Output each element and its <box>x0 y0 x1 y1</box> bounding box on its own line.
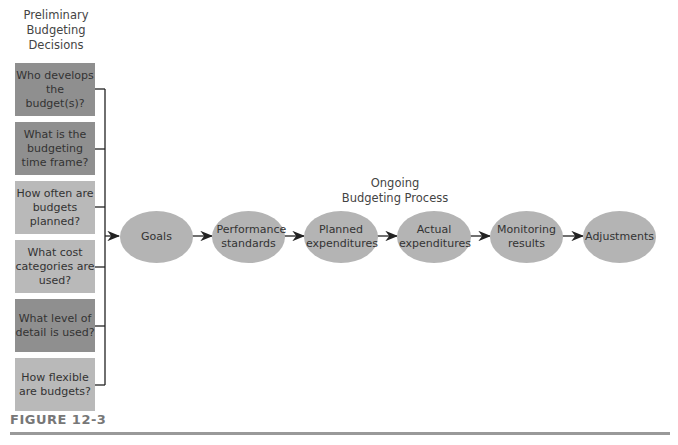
process-step-actual-expenditures: Actual expenditures <box>397 211 471 263</box>
process-step-performance-standards: Performance standards <box>212 211 285 263</box>
step-label: Actual expenditures <box>399 223 469 251</box>
step-label: Goals <box>141 230 172 244</box>
step-label: Performance standards <box>217 223 281 251</box>
process-step-adjustments: Adjustments <box>583 211 656 263</box>
header-line: Ongoing <box>325 176 465 191</box>
process-step-goals: Goals <box>120 211 193 263</box>
figure-label: FIGURE 12-3 <box>10 412 106 427</box>
header-line: Budgeting Process <box>325 191 465 206</box>
process-step-monitoring-results: Monitoring results <box>490 211 563 263</box>
process-step-planned-expenditures: Planned expenditures <box>304 211 378 263</box>
ongoing-process-header: Ongoing Budgeting Process <box>325 176 465 206</box>
step-label: Monitoring results <box>497 223 557 251</box>
figure-rule-divider <box>10 432 670 435</box>
step-label: Adjustments <box>585 230 654 244</box>
step-label: Planned expenditures <box>306 223 376 251</box>
